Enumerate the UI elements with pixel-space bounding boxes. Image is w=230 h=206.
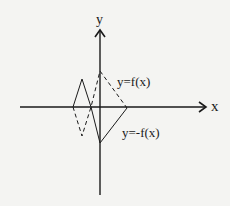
graph-canvas: y x y=f(x) y=-f(x) [0, 0, 230, 206]
x-axis-label: x [211, 99, 219, 114]
curve-f-label: y=f(x) [117, 75, 150, 88]
curve-neg-f-label: y=-f(x) [122, 126, 160, 139]
y-axis-label: y [96, 13, 103, 27]
graph-svg [0, 0, 230, 206]
